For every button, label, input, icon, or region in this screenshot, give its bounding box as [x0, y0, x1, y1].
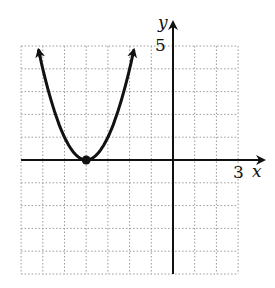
y-tick-label-5: 5 [155, 35, 166, 55]
x-tick-label-3: 3 [233, 162, 244, 182]
x-axis-label: x [252, 161, 262, 181]
y-axis-label: y [157, 12, 168, 32]
axes [21, 22, 264, 274]
parabola-graph: y 5 3 x [0, 0, 275, 288]
vertex-point [82, 156, 91, 165]
parabola-curve [39, 50, 134, 160]
